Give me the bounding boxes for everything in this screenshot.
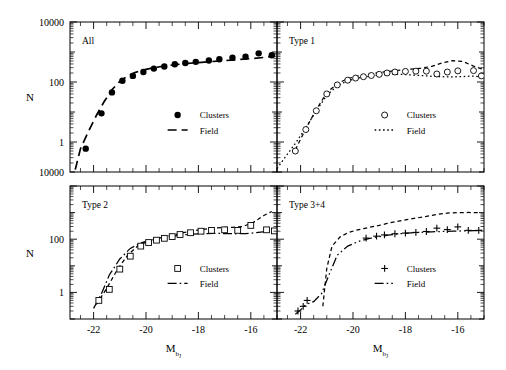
panel-type2-svg: Type 2ClustersField1001N-22-20-18-16MbJ: [0, 184, 280, 370]
panel-type1: Type 1ClustersField: [276, 0, 506, 196]
data-point-marker: [154, 237, 160, 243]
series-line-field: [295, 230, 484, 314]
data-point-marker: [382, 112, 388, 118]
data-point-marker: [304, 297, 311, 304]
y-axis-title: N: [26, 91, 34, 103]
data-point-marker: [384, 70, 390, 76]
data-point-marker: [177, 232, 183, 238]
data-point-marker: [222, 227, 228, 233]
panel-type34: Type 3+4ClustersField-22-20-18-16MbJ: [276, 184, 506, 370]
data-point-marker: [454, 224, 461, 231]
data-point-marker: [206, 57, 212, 63]
data-point-marker: [198, 228, 204, 234]
y-tick-label: 100: [49, 77, 64, 88]
axis-ticks: [70, 22, 277, 172]
data-point-marker: [216, 56, 222, 62]
data-point-marker: [381, 265, 388, 272]
data-point-marker: [151, 65, 157, 71]
data-point-marker: [174, 112, 180, 118]
data-point-marker: [334, 82, 340, 88]
y-axis-title: N: [26, 247, 34, 259]
data-point-marker: [182, 60, 188, 66]
panel-label-type34: Type 3+4: [289, 200, 325, 210]
series-markers-clusters: [83, 50, 275, 152]
legend-label-clusters: Clusters: [407, 110, 437, 120]
series-markers-clusters: [295, 224, 483, 315]
data-point-marker: [423, 68, 429, 74]
x-tick-label: -22: [87, 324, 100, 335]
series-layer: [75, 50, 275, 169]
x-axis-title: MbJ: [166, 342, 182, 359]
legend-label-clusters: Clusters: [200, 264, 230, 274]
data-point-marker: [353, 75, 359, 81]
panel-type34-svg: Type 3+4ClustersField-22-20-18-16MbJ: [276, 184, 506, 370]
legend-type2: ClustersField: [168, 264, 230, 289]
data-point-marker: [475, 227, 482, 234]
data-point-marker: [402, 230, 409, 237]
data-point-marker: [345, 77, 351, 83]
data-point-marker: [434, 71, 440, 77]
panel-all-svg: AllClustersField10000100110000N: [0, 0, 280, 196]
data-point-marker: [478, 73, 484, 79]
data-point-marker: [402, 68, 408, 74]
data-point-marker: [140, 69, 146, 75]
data-point-marker: [465, 227, 472, 234]
data-point-marker: [303, 127, 309, 133]
data-point-marker: [161, 63, 167, 69]
x-axis-title: MbJ: [373, 342, 389, 359]
data-point-marker: [146, 240, 152, 246]
data-point-marker: [381, 232, 388, 239]
legend-type1: ClustersField: [375, 110, 437, 135]
legend-label-field: Field: [200, 279, 219, 289]
series-line-all-reference: [96, 212, 272, 305]
data-point-marker: [433, 225, 440, 232]
data-point-marker: [242, 53, 248, 59]
data-point-marker: [117, 266, 123, 272]
data-point-marker: [175, 266, 181, 272]
data-point-marker: [292, 148, 298, 154]
x-tick-label: -20: [139, 324, 152, 335]
data-point-marker: [413, 68, 419, 74]
data-point-marker: [392, 69, 398, 75]
panel-type34-plot: Type 3+4ClustersField-22-20-18-16MbJ: [277, 186, 484, 359]
legend-label-clusters: Clusters: [407, 264, 437, 274]
y-tick-label: 1: [59, 287, 64, 298]
data-point-marker: [412, 229, 419, 236]
panel-label-all: All: [82, 36, 95, 46]
data-point-marker: [130, 73, 136, 79]
data-point-marker: [209, 227, 215, 233]
panel-all: AllClustersField10000100110000N: [0, 0, 280, 196]
data-point-marker: [83, 145, 89, 151]
series-layer: [277, 61, 484, 169]
panel-all-plot: AllClustersField10000100110000N: [26, 17, 277, 178]
series-layer: [94, 212, 278, 309]
data-point-marker: [255, 50, 261, 56]
data-point-marker: [300, 303, 307, 310]
data-point-marker: [368, 72, 374, 78]
data-point-marker: [235, 227, 241, 233]
data-point-marker: [193, 59, 199, 65]
data-point-marker: [423, 228, 430, 235]
y-tick-label: 10000: [39, 17, 64, 28]
panel-type1-plot: Type 1ClustersField: [277, 22, 484, 172]
data-point-marker: [98, 110, 104, 116]
data-point-marker: [109, 89, 115, 95]
y-tick-label: 1: [59, 137, 64, 148]
panel-type1-svg: Type 1ClustersField: [276, 0, 506, 196]
x-tick-label: -20: [346, 324, 359, 335]
figure-container: AllClustersField10000100110000N Type 1Cl…: [0, 0, 506, 370]
data-point-marker: [471, 68, 477, 74]
series-line-field: [75, 56, 274, 169]
data-point-marker: [455, 68, 461, 74]
x-tick-label: -22: [294, 324, 307, 335]
legend-all: ClustersField: [168, 110, 230, 135]
plot-frame: [70, 22, 277, 172]
panel-label-type1: Type 1: [289, 36, 315, 46]
x-tick-label: -16: [451, 324, 464, 335]
data-point-marker: [324, 91, 330, 97]
legend-label-clusters: Clusters: [200, 110, 230, 120]
series-layer: [295, 212, 484, 314]
y-tick-label: 10000: [39, 167, 64, 178]
data-point-marker: [264, 227, 270, 233]
data-point-marker: [161, 235, 167, 241]
